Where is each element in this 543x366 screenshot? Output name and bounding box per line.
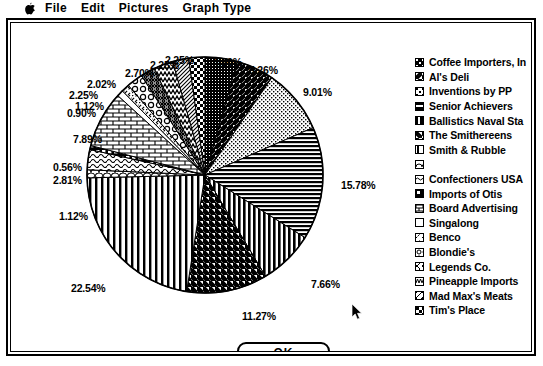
swatch-dense-dither [415,58,424,67]
pct-label-2-81: 2.81% [53,174,82,186]
legend-item-label: Benco [429,231,461,243]
pct-label-2-25-a: 2.25% [69,89,98,101]
legend-item[interactable]: Senior Achievers [415,99,532,114]
swatch-grid [415,189,424,198]
pct-label-2-02: 2.02% [87,78,116,90]
legend-item-label: Senior Achievers [429,100,513,112]
swatch-zigzag [415,277,424,286]
pct-label-22-54: 22.54% [71,282,105,294]
legend-item-label: Imports of Otis [429,188,502,200]
menu-item-edit[interactable]: Edit [74,0,112,17]
legend-item[interactable]: Smith & Rubble [415,143,532,158]
swatch-scales [415,160,424,169]
pct-label-0-56: 0.56% [53,161,82,173]
swatch-diagonal-up [415,72,424,81]
legend-item-label: Singalong [429,217,479,229]
swatch-vertical-lines [415,145,424,154]
pct-label-11-27: 11.27% [242,310,276,322]
pct-label-5-26: 5.26% [249,64,278,76]
legend-item[interactable]: Inventions by PP [415,84,532,99]
chart-legend: Coffee Importers, InAl's DeliInventions … [415,55,532,318]
legend-item-label: Mad Max's Meats [429,290,513,302]
legend-item[interactable]: Coffee Importers, In [415,55,532,70]
pct-label-7-66: 7.66% [311,278,340,290]
pct-label-4-50: 4.50% [213,56,242,68]
pie-slice[interactable] [87,175,205,292]
legend-item[interactable]: Mad Max's Meats [415,289,532,304]
swatch-vertical-thin [415,116,424,125]
pie-graphic [83,53,327,297]
menu-item-pictures[interactable]: Pictures [112,0,176,17]
legend-item[interactable]: Singalong [415,216,532,231]
chart-dialog: 4.50% 5.26% 9.01% 15.78% 7.66% 11.27% 22… [6,18,536,356]
legend-item[interactable]: Benco [415,230,532,245]
pie-slices [87,57,323,293]
swatch-checker [415,306,424,315]
legend-item[interactable]: Board Advertising [415,201,532,216]
pct-label-15-78: 15.78% [341,179,375,191]
swatch-horizontal-lines [415,102,424,111]
legend-item-label: Coffee Importers, In [429,56,526,68]
legend-item-label: Ballistics Naval Sta [429,115,523,127]
legend-item-label: Board Advertising [429,202,518,214]
legend-item[interactable]: Pineapple Imports [415,274,532,289]
legend-item-label: Legends Co. [429,261,491,273]
swatch-diagonal-down [415,131,424,140]
legend-item[interactable]: Ballistics Naval Sta [415,113,532,128]
pct-label-1-12-a: 1.12% [59,210,88,222]
dialog-content: 4.50% 5.26% 9.01% 15.78% 7.66% 11.27% 22… [10,22,532,352]
legend-item[interactable]: Legends Co. [415,259,532,274]
legend-item-label: Al's Deli [429,71,469,83]
legend-item-label: Tim's Place [429,304,485,316]
legend-item-label: Pineapple Imports [429,275,518,287]
legend-item-label: Blondie's [429,246,475,258]
pct-label-7-89: 7.89% [73,133,102,145]
legend-item[interactable]: The Smithereens [415,128,532,143]
pie-chart: 4.50% 5.26% 9.01% 15.78% 7.66% 11.27% 22… [11,23,411,313]
legend-item[interactable]: Al's Deli [415,70,532,85]
pct-label-9-01: 9.01% [303,86,332,98]
swatch-brick [415,204,424,213]
pie-svg [83,53,327,297]
swatch-diagonal-fine [415,291,424,300]
pct-label-2-25-c: 2.25% [165,54,194,66]
legend-item[interactable]: Imports of Otis [415,186,532,201]
legend-item-label: Confectioners USA [429,173,523,185]
menu-item-graph-type[interactable]: Graph Type [176,0,259,17]
legend-item[interactable] [415,157,532,172]
swatch-fine-dots [415,87,424,96]
swatch-circles [415,248,424,257]
pct-label-1-12-b: 1.12% [75,100,104,112]
apple-icon[interactable] [24,2,36,15]
swatch-waves [415,175,424,184]
legend-item[interactable]: Confectioners USA [415,172,532,187]
legend-item-label: Inventions by PP [429,85,512,97]
swatch-dashes [415,233,424,242]
legend-item[interactable]: Blondie's [415,245,532,260]
screen: File Edit Pictures Graph Type [0,0,543,366]
ok-button-label: OK [274,346,294,353]
legend-item[interactable]: Tim's Place [415,303,532,318]
legend-item-label: Smith & Rubble [429,144,506,156]
ok-button[interactable]: OK [237,342,330,352]
swatch-crosshatch [415,262,424,271]
legend-item-label: The Smithereens [429,129,512,141]
menu-bar: File Edit Pictures Graph Type [0,0,543,17]
menu-item-file[interactable]: File [38,0,74,17]
swatch-plain [415,218,424,227]
